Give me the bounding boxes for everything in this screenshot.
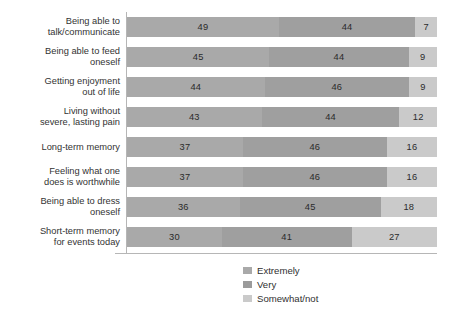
bar-segment: 18 [381, 197, 437, 217]
bar-value-label: 18 [403, 202, 414, 212]
bar-segment: 44 [269, 47, 408, 67]
bar-segment: 30 [127, 227, 222, 247]
bar-value-label: 46 [309, 142, 320, 152]
bar-value-label: 41 [281, 232, 292, 242]
bar-value-label: 45 [193, 52, 204, 62]
bar-segment: 16 [387, 167, 437, 187]
bar-segment: 44 [127, 77, 265, 97]
stacked-bar-chart: Being able totalk/communicate49447Being … [0, 0, 461, 322]
category-label: Being able totalk/communicate [8, 12, 120, 42]
bar-value-label: 16 [407, 142, 418, 152]
legend-label: Somewhat/not [257, 292, 318, 305]
bar-value-label: 37 [180, 172, 191, 182]
bar-row: Short-term memoryfor events today304127 [8, 222, 437, 252]
category-label-line: out of life [82, 87, 120, 98]
category-label: Being able to feedoneself [8, 42, 120, 72]
bar-segment: 41 [222, 227, 352, 247]
bar-value-label: 7 [423, 22, 428, 32]
bar-value-label: 12 [413, 112, 424, 122]
stacked-bar: 304127 [127, 227, 437, 247]
bar-value-label: 30 [169, 232, 180, 242]
stacked-bar: 434412 [127, 107, 437, 127]
category-label: Feeling what onedoes is worthwhile [8, 162, 120, 192]
legend-item[interactable]: Extremely [243, 264, 403, 277]
category-label-line: Being able to feed [45, 46, 120, 57]
bar-segment: 37 [127, 137, 243, 157]
bar-row: Being able totalk/communicate49447 [8, 12, 437, 42]
bar-value-label: 49 [198, 22, 209, 32]
category-label-line: Feeling what one [49, 166, 120, 177]
bar-segment: 36 [127, 197, 240, 217]
bar-row: Being able to dressoneself364518 [8, 192, 437, 222]
bar-value-label: 44 [325, 112, 336, 122]
category-label-line: for events today [54, 237, 120, 248]
bar-segment: 27 [352, 227, 437, 247]
category-label-line: Being able to dress [40, 196, 120, 207]
stacked-bar: 44469 [127, 77, 437, 97]
bar-segment: 12 [399, 107, 437, 127]
bar-value-label: 16 [407, 172, 418, 182]
bar-value-label: 45 [305, 202, 316, 212]
bar-segment: 44 [262, 107, 400, 127]
bar-row: Getting enjoymentout of life44469 [8, 72, 437, 102]
bar-value-label: 37 [180, 142, 191, 152]
stacked-bar: 374616 [127, 137, 437, 157]
category-label-line: severe, lasting pain [40, 117, 120, 128]
category-label-line: Long-term memory [41, 142, 120, 153]
category-label-line: Getting enjoyment [45, 76, 120, 87]
bar-segment: 9 [409, 77, 437, 97]
bar-segment: 9 [409, 47, 437, 67]
legend-swatch-icon [243, 295, 252, 302]
chart-legend: ExtremelyVerySomewhat/not [243, 264, 403, 306]
bar-segment: 45 [240, 197, 381, 217]
stacked-bar: 374616 [127, 167, 437, 187]
bar-rows: Being able totalk/communicate49447Being … [8, 10, 437, 254]
stacked-bar: 45449 [127, 47, 437, 67]
bar-segment: 16 [387, 137, 437, 157]
bar-row: Long-term memory374616 [8, 132, 437, 162]
category-label-line: Living without [64, 106, 120, 117]
legend-item[interactable]: Somewhat/not [243, 292, 403, 305]
category-label: Living withoutsevere, lasting pain [8, 102, 120, 132]
stacked-bar: 49447 [127, 17, 437, 37]
bar-value-label: 46 [331, 82, 342, 92]
category-label: Short-term memoryfor events today [8, 222, 120, 252]
category-label-line: Short-term memory [40, 226, 120, 237]
category-label: Getting enjoymentout of life [8, 72, 120, 102]
category-label: Being able to dressoneself [8, 192, 120, 222]
bar-segment: 46 [265, 77, 409, 97]
category-label-line: does is worthwhile [44, 177, 120, 188]
legend-swatch-icon [243, 281, 252, 288]
bar-value-label: 44 [342, 22, 353, 32]
category-label-line: Being able to [66, 16, 120, 27]
bar-row: Living withoutsevere, lasting pain434412 [8, 102, 437, 132]
category-label-line: oneself [90, 207, 120, 218]
bar-value-label: 9 [420, 52, 425, 62]
bar-row: Being able to feedoneself45449 [8, 42, 437, 72]
plot-area: Being able totalk/communicate49447Being … [8, 10, 437, 256]
bar-value-label: 46 [309, 172, 320, 182]
bar-segment: 37 [127, 167, 243, 187]
bar-value-label: 36 [178, 202, 189, 212]
bar-row: Feeling what onedoes is worthwhile374616 [8, 162, 437, 192]
bar-segment: 46 [243, 167, 387, 187]
bar-segment: 43 [127, 107, 262, 127]
bar-segment: 46 [243, 137, 387, 157]
legend-swatch-icon [243, 267, 252, 274]
bar-segment: 44 [279, 17, 415, 37]
legend-label: Very [257, 278, 276, 291]
bar-value-label: 9 [420, 82, 425, 92]
stacked-bar: 364518 [127, 197, 437, 217]
bar-value-label: 43 [189, 112, 200, 122]
category-label: Long-term memory [8, 132, 120, 162]
legend-label: Extremely [257, 264, 300, 277]
bar-segment: 49 [127, 17, 279, 37]
bar-value-label: 44 [334, 52, 345, 62]
bar-value-label: 44 [191, 82, 202, 92]
category-label-line: oneself [90, 57, 120, 68]
bar-segment: 7 [415, 17, 437, 37]
bar-value-label: 27 [389, 232, 400, 242]
category-label-line: talk/communicate [48, 27, 120, 38]
legend-item[interactable]: Very [243, 278, 403, 291]
bar-segment: 45 [127, 47, 269, 67]
